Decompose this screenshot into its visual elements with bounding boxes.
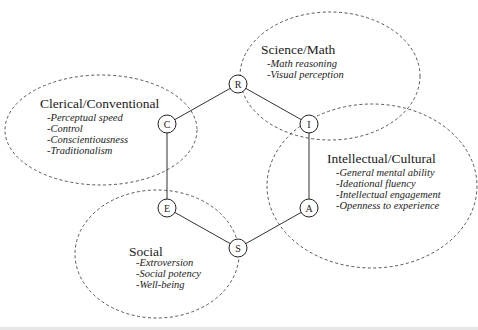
cluster-item: -Visual perception bbox=[267, 69, 344, 80]
edge-s-e bbox=[167, 208, 238, 248]
cluster-item: -Ideational fluency bbox=[336, 178, 416, 189]
node-e: E bbox=[158, 199, 176, 217]
node-a-label: A bbox=[305, 203, 313, 214]
cluster-item: -Openness to experience bbox=[336, 200, 440, 211]
node-c: C bbox=[158, 115, 176, 133]
cluster-item: -Traditionalism bbox=[47, 145, 113, 156]
cluster-item: -Conscientiousness bbox=[47, 134, 128, 145]
cluster-title: Clerical/Conventional bbox=[40, 96, 159, 111]
edge-r-i bbox=[238, 84, 309, 124]
edge-c-r bbox=[167, 84, 238, 124]
cluster-item: -Extroversion bbox=[136, 257, 193, 268]
cluster-title: Intellectual/Cultural bbox=[327, 151, 436, 166]
intellectual-cultural-cluster: Intellectual/Cultural -General mental ab… bbox=[327, 151, 442, 211]
cluster-item: -General mental ability bbox=[336, 167, 435, 178]
cluster-item: -Math reasoning bbox=[267, 58, 337, 69]
node-c-label: C bbox=[164, 119, 171, 130]
node-i: I bbox=[300, 115, 318, 133]
node-a: A bbox=[300, 199, 318, 217]
node-s-label: S bbox=[235, 243, 241, 254]
node-r: R bbox=[229, 75, 247, 93]
node-r-label: R bbox=[235, 79, 242, 90]
cluster-item: -Social potency bbox=[136, 268, 201, 279]
riasec-diagram: R I A S E C Science/Math -Math reasoning… bbox=[0, 0, 478, 330]
cluster-title: Science/Math bbox=[261, 42, 335, 57]
node-s: S bbox=[229, 239, 247, 257]
cluster-item: -Well-being bbox=[136, 279, 185, 290]
node-e-label: E bbox=[164, 203, 170, 214]
cluster-item: -Intellectual engagement bbox=[336, 189, 442, 200]
science-math-cluster: Science/Math -Math reasoning -Visual per… bbox=[261, 42, 344, 80]
cluster-item: -Perceptual speed bbox=[47, 112, 123, 123]
node-i-label: I bbox=[307, 119, 310, 130]
clerical-conventional-cluster: Clerical/Conventional -Perceptual speed … bbox=[40, 96, 159, 156]
social-cluster: Social -Extroversion -Social potency -We… bbox=[129, 244, 201, 290]
cluster-item: -Control bbox=[47, 123, 83, 134]
